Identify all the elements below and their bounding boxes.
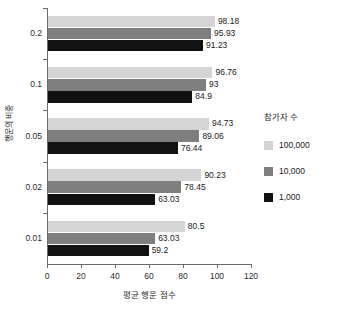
y-axis-category-label: 0.05 xyxy=(2,131,42,141)
legend: 참가자 수 100,00010,0001,000 xyxy=(264,110,339,210)
bar-value-label: 96.76 xyxy=(215,67,236,77)
bar xyxy=(48,142,178,154)
bar-value-label: 59.2 xyxy=(152,245,169,255)
bar xyxy=(48,194,155,206)
x-axis-tick-label: 80 xyxy=(168,271,198,281)
bar-value-label: 90.23 xyxy=(204,170,225,180)
y-axis-tick xyxy=(43,162,48,163)
x-axis-tick-label: 0 xyxy=(32,271,62,281)
bar xyxy=(48,130,199,142)
bar xyxy=(48,245,149,257)
legend-swatch-icon xyxy=(264,193,273,202)
y-axis-tick xyxy=(43,8,48,9)
legend-item: 1,000 xyxy=(264,184,339,210)
bar xyxy=(48,67,212,79)
bar xyxy=(48,40,203,52)
y-axis-category-label: 0.1 xyxy=(2,79,42,89)
legend-label: 100,000 xyxy=(279,140,310,150)
legend-label: 10,000 xyxy=(279,166,305,176)
bar xyxy=(48,91,192,103)
y-axis-tick xyxy=(43,213,48,214)
legend-swatch-icon xyxy=(264,167,273,176)
bar-value-label: 80.5 xyxy=(188,221,205,231)
y-axis-category-label: 0.2 xyxy=(2,28,42,38)
bar-value-label: 78.45 xyxy=(184,182,205,192)
bar-value-label: 63.03 xyxy=(158,194,179,204)
x-axis-tick-label: 120 xyxy=(236,271,266,281)
x-axis-tick xyxy=(81,264,82,268)
bar xyxy=(48,28,211,40)
y-axis-tick xyxy=(43,59,48,60)
legend-items: 100,00010,0001,000 xyxy=(264,132,339,210)
bar-value-label: 94.73 xyxy=(212,118,233,128)
x-axis-tick-label: 60 xyxy=(134,271,164,281)
x-axis-tick xyxy=(47,264,48,268)
legend-label: 1,000 xyxy=(279,192,300,202)
x-axis-tick xyxy=(149,264,150,268)
bar-value-label: 98.18 xyxy=(218,16,239,26)
bar-chart: 행운의 비중 98.1895.9391.2396.769384.994.7389… xyxy=(0,0,339,311)
x-axis-tick-label: 100 xyxy=(202,271,232,281)
x-axis-tick-label: 20 xyxy=(66,271,96,281)
bar-value-label: 93 xyxy=(209,79,218,89)
y-axis-category-label: 0.01 xyxy=(2,233,42,243)
legend-item: 10,000 xyxy=(264,158,339,184)
x-axis-tick xyxy=(183,264,184,268)
x-axis-tick xyxy=(217,264,218,268)
bar xyxy=(48,233,155,245)
x-axis-tick xyxy=(115,264,116,268)
legend-swatch-icon xyxy=(264,141,273,150)
plot-area: 98.1895.9391.2396.769384.994.7389.0676.4… xyxy=(47,8,251,264)
bar xyxy=(48,221,185,233)
bar xyxy=(48,169,201,181)
y-axis-title: 행운의 비중 xyxy=(3,82,14,166)
bar-value-label: 91.23 xyxy=(206,40,227,50)
x-axis-tick-label: 40 xyxy=(100,271,130,281)
bar xyxy=(48,16,215,28)
bar-value-label: 89.06 xyxy=(202,131,223,141)
x-axis-tick xyxy=(251,264,252,268)
y-axis-tick xyxy=(43,110,48,111)
bar-value-label: 84.9 xyxy=(195,91,212,101)
legend-title: 참가자 수 xyxy=(264,110,339,122)
x-axis-title: 평균 행운 점수 xyxy=(47,288,252,300)
bar xyxy=(48,181,181,193)
bar-value-label: 95.93 xyxy=(214,28,235,38)
legend-item: 100,000 xyxy=(264,132,339,158)
y-axis-category-label: 0.02 xyxy=(2,182,42,192)
bar-value-label: 76.44 xyxy=(181,143,202,153)
bar-value-label: 63.03 xyxy=(158,233,179,243)
bar xyxy=(48,79,206,91)
bar xyxy=(48,118,209,130)
